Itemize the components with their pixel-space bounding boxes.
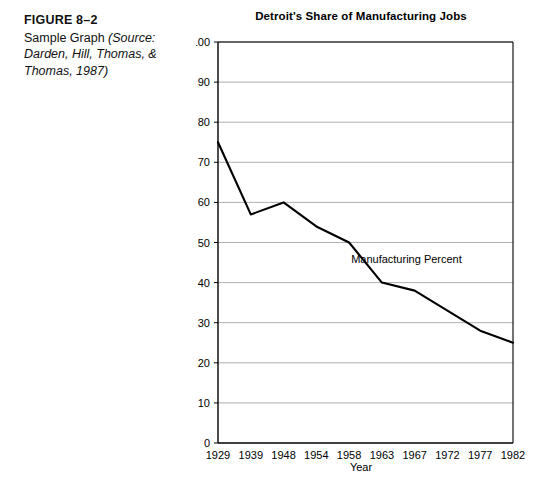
y-tick-label: 80 — [198, 116, 210, 128]
y-tick-label: 50 — [198, 237, 210, 249]
x-tick-label: 1948 — [271, 449, 295, 461]
x-tick-label: 1963 — [370, 449, 394, 461]
annotation-label: Manufacturing Percent — [351, 253, 462, 265]
y-tick-label: 10 — [198, 397, 210, 409]
x-tick-label: 1972 — [435, 449, 459, 461]
x-tick-label: 1954 — [304, 449, 328, 461]
x-tick-label: 1982 — [501, 449, 525, 461]
y-tick-label: 40 — [198, 277, 210, 289]
y-tick-label: 20 — [198, 357, 210, 369]
series-annotations: Manufacturing Percent — [351, 253, 462, 265]
figure-caption-title: Sample Graph — [24, 31, 108, 45]
y-tick-label: 90 — [198, 76, 210, 88]
chart-container: Detroit's Share of Manufacturing Jobs 01… — [196, 6, 536, 476]
y-axis-tick-labels: 0102030405060708090100 — [196, 36, 210, 449]
gridlines-group — [214, 42, 513, 443]
x-tick-label: 1977 — [468, 449, 492, 461]
y-tick-label: 60 — [198, 196, 210, 208]
figure-number: FIGURE 8–2 — [24, 12, 189, 29]
y-tick-label: 100 — [196, 36, 210, 48]
figure-caption-text: Sample Graph (Source: Darden, Hill, Thom… — [24, 30, 189, 80]
x-axis-tick-labels: 1929193919481954195819631967197219771982 — [206, 449, 525, 461]
x-tick-label: 1958 — [337, 449, 361, 461]
y-tick-label: 70 — [198, 156, 210, 168]
line-chart-plot: 0102030405060708090100 19291939194819541… — [196, 6, 536, 476]
y-tick-label: 0 — [204, 437, 210, 449]
figure-page: FIGURE 8–2 Sample Graph (Source: Darden,… — [0, 0, 547, 482]
x-axis-title: Year — [196, 461, 526, 473]
x-tick-label: 1929 — [206, 449, 230, 461]
y-tick-label: 30 — [198, 317, 210, 329]
x-tick-label: 1967 — [402, 449, 426, 461]
figure-caption: FIGURE 8–2 Sample Graph (Source: Darden,… — [24, 12, 189, 79]
x-tick-label: 1939 — [239, 449, 263, 461]
